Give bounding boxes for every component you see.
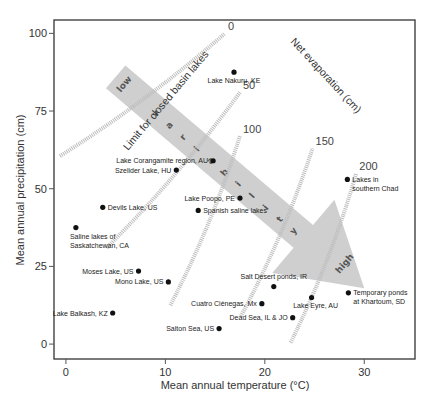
x-axis-title: Mean annual temperature (°C) — [161, 379, 310, 391]
data-point-label: Szelider Lake, HU — [115, 167, 171, 174]
data-point — [174, 167, 179, 172]
data-point-label: Lakes insouthern Chad — [352, 176, 398, 192]
data-point-label: Mono Lake, US — [115, 278, 164, 285]
evaporation-isoline-label: 100 — [243, 123, 261, 135]
net-evaporation-title: Net evaporation (cm) — [289, 35, 365, 115]
y-tick-label: 50 — [35, 183, 47, 195]
evaporation-isoline-label: 150 — [316, 135, 334, 147]
y-tick-label: 100 — [29, 27, 47, 39]
x-tick-label: 30 — [358, 366, 370, 378]
evaporation-isoline-label: 0 — [228, 20, 234, 32]
data-point-label: Lake Eyre, AU — [293, 302, 338, 310]
data-point — [216, 326, 221, 331]
data-point-label: Salton Sea, US — [166, 325, 214, 332]
chart: lowvariabilityhigh 050100150200 0102030 … — [0, 0, 432, 410]
data-point — [346, 290, 351, 295]
evaporation-isoline-label: 200 — [359, 160, 377, 172]
y-tick-label: 0 — [41, 338, 47, 350]
data-point — [231, 70, 236, 75]
data-point-label: Lake Balkash, KZ — [53, 310, 109, 317]
data-point — [196, 208, 201, 213]
data-point-label: Lake Poopo, PE — [184, 195, 235, 203]
data-point — [100, 205, 105, 210]
data-point-label: Temporary pondsat Khartoum, SD — [353, 289, 408, 305]
y-tick-label: 75 — [35, 105, 47, 117]
y-tick-label: 25 — [35, 260, 47, 272]
data-point — [259, 301, 264, 306]
data-point-label: Moses Lake, US — [82, 268, 134, 275]
data-point — [271, 284, 276, 289]
y-axis: 0255075100 — [29, 27, 54, 350]
data-point-label: Lake Corangamite region, AU — [116, 157, 208, 165]
data-point-label: Salt Desert ponds, IR — [241, 273, 308, 281]
data-point-label: Spanish saline lakes — [203, 207, 267, 215]
data-point — [211, 158, 216, 163]
data-point-label: Dead Sea, IL & JO — [230, 314, 289, 321]
x-tick-label: 0 — [63, 366, 69, 378]
data-point — [237, 195, 242, 200]
data-point — [166, 279, 171, 284]
data-point — [110, 310, 115, 315]
data-point — [309, 295, 314, 300]
data-point-label: Cuatro Ciénegas, Mx — [191, 300, 257, 308]
data-point — [345, 177, 350, 182]
data-point — [136, 268, 141, 273]
data-point-label: Lake Nakuru, KE — [208, 77, 261, 84]
x-axis: 0102030 — [63, 359, 371, 378]
x-tick-label: 20 — [259, 366, 271, 378]
y-axis-title: Mean annual precipitation (cm) — [14, 114, 26, 265]
x-tick-label: 10 — [159, 366, 171, 378]
data-point — [290, 315, 295, 320]
data-point — [73, 225, 78, 230]
data-point-label: Devils Lake, US — [108, 204, 158, 211]
